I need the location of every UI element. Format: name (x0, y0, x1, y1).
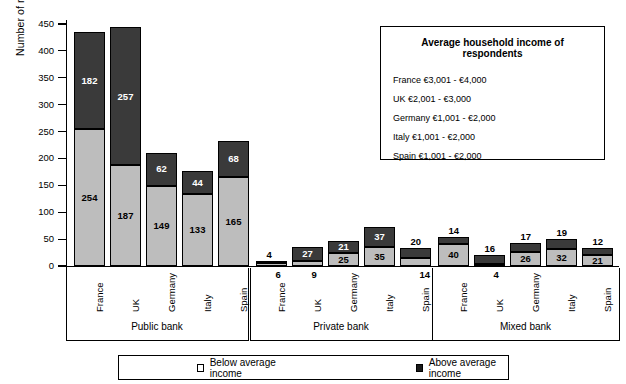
bar-stack: 40 (438, 237, 469, 266)
bar-stack: 21 (582, 248, 613, 266)
bar-value-label-below: 133 (190, 225, 206, 235)
y-tick-label: 200 (24, 153, 54, 163)
legend-swatch-above-icon (416, 364, 423, 372)
bar-stack: 3735 (364, 227, 395, 266)
bar-segment-below-average: 40 (438, 244, 469, 266)
bar-segment-above-average (510, 243, 541, 252)
bar-segment-below-average: 187 (110, 165, 141, 266)
group-label: Mixed bank (432, 321, 619, 332)
bar-stack: 32 (546, 239, 577, 266)
bar-value-label-below: 21 (592, 256, 603, 266)
bar-stack: 27 (292, 247, 323, 266)
bar-value-label-above: 17 (521, 232, 532, 242)
bar-segment-below-average (400, 258, 431, 266)
y-tick-mark (58, 50, 66, 51)
info-box-row-uk: UK €2,001 - €3,000 (393, 94, 592, 104)
bar-value-label-above: 182 (82, 76, 98, 86)
bar-stack: 257187 (110, 27, 141, 266)
legend-item-below-average: Below average income (197, 357, 288, 379)
bar-value-label-above: 12 (593, 237, 604, 247)
bar-segment-above-average: 21 (328, 241, 359, 252)
x-category-label: France (94, 282, 105, 312)
bar-segment-above-average: 27 (292, 247, 323, 262)
bar-value-label-above: 44 (192, 178, 203, 188)
bar-segment-above-average: 37 (364, 227, 395, 247)
info-box-row-france: France €3,001 - €4,000 (393, 75, 592, 85)
x-category-label: Germany (348, 273, 359, 312)
info-box-row-germany: Germany €1,001 - €2,000 (393, 113, 592, 123)
bar-segment-below-average: 133 (182, 194, 213, 266)
bar-segment-below-average: 35 (364, 247, 395, 266)
bar-segment-below-average: 32 (546, 249, 577, 266)
bar-segment-above-average: 68 (218, 141, 249, 178)
legend-label-below: Below average income (210, 357, 288, 379)
bar-value-label-above: 19 (557, 228, 568, 238)
bar-stack (256, 261, 287, 266)
bar-value-label-above: 21 (338, 242, 349, 252)
bar-value-label-above: 27 (302, 249, 313, 259)
bar-value-label-above: 16 (485, 244, 496, 254)
bar-value-label-above: 62 (156, 164, 167, 174)
y-axis-title: Number of respondents (14, 0, 26, 70)
x-category-label: Spain (602, 288, 613, 312)
bar-segment-above-average (438, 237, 469, 245)
y-tick-label: 150 (24, 180, 54, 190)
bar-segment-below-average: 21 (582, 255, 613, 266)
y-tick-mark (58, 185, 66, 186)
legend-swatch-below-icon (197, 364, 204, 372)
group-label: Private bank (250, 321, 432, 332)
bar-segment-below-average (292, 261, 323, 266)
chart-canvas: Number of respondents 050100150200250300… (0, 0, 626, 384)
x-axis-line (66, 266, 619, 267)
bar-value-label-below: 32 (556, 253, 567, 263)
legend-label-above: Above average income (429, 357, 508, 379)
bar-value-label-below: 9 (312, 270, 317, 280)
x-category-label: Italy (566, 295, 577, 312)
group-separator (248, 268, 249, 341)
x-category-label: Italy (202, 295, 213, 312)
bar-stack: 44133 (182, 171, 213, 266)
x-category-label: Germany (530, 273, 541, 312)
bar-value-label-below: 149 (154, 221, 170, 231)
legend-item-above-average: Above average income (416, 357, 508, 379)
x-category-label: France (276, 282, 287, 312)
info-box: Average household income of respondents … (380, 26, 605, 160)
group-baseline (66, 340, 248, 341)
y-tick-label: 250 (24, 127, 54, 137)
x-category-label: Italy (384, 295, 395, 312)
y-tick-mark (58, 212, 66, 213)
bar-value-label-above: 68 (228, 154, 239, 164)
group-baseline (250, 340, 432, 341)
bar-segment-above-average: 44 (182, 171, 213, 195)
bar-value-label-below: 6 (276, 270, 281, 280)
bar-segment-above-average (400, 248, 431, 259)
bar-value-label-below: 35 (374, 252, 385, 262)
bar-value-label-above: 4 (267, 250, 272, 260)
x-category-label: UK (494, 299, 505, 312)
bar-segment-below-average: 165 (218, 177, 249, 266)
x-category-label: Spain (238, 288, 249, 312)
x-category-label: UK (130, 299, 141, 312)
bar-value-label-above: 37 (374, 232, 385, 242)
bar-segment-below-average: 26 (510, 252, 541, 266)
bar-value-label-below: 165 (226, 217, 242, 227)
y-tick-label: 450 (24, 19, 54, 29)
x-category-label: Spain (420, 288, 431, 312)
info-box-title: Average household income of respondents (393, 37, 592, 59)
bar-stack (474, 255, 505, 266)
y-tick-label: 400 (24, 46, 54, 56)
bar-segment-above-average (546, 239, 577, 249)
y-tick-label: 300 (24, 100, 54, 110)
bar-segment-below-average (474, 264, 505, 266)
y-tick-label: 100 (24, 207, 54, 217)
x-category-label: France (458, 282, 469, 312)
bar-value-label-below: 4 (494, 270, 499, 280)
y-axis-line (66, 20, 67, 268)
y-tick-mark (58, 265, 66, 266)
bar-stack: 68165 (218, 141, 249, 266)
bar-value-label-below: 25 (338, 255, 349, 265)
chart-legend: Below average income Above average incom… (118, 355, 509, 380)
y-tick-mark (58, 23, 66, 24)
bar-segment-below-average (256, 263, 287, 266)
bar-value-label-below: 40 (448, 250, 459, 260)
